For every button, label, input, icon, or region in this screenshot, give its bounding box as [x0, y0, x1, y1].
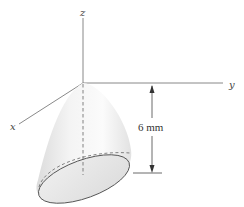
arrow-up-icon: [150, 85, 155, 93]
arrow-down-icon: [150, 165, 155, 173]
paraboloid-diagram: z y x 6 mm: [0, 0, 244, 207]
dimension-label: 6 mm: [138, 121, 164, 133]
z-axis-label: z: [79, 7, 86, 18]
y-axis-label: y: [228, 79, 235, 90]
x-axis-label: x: [10, 121, 16, 132]
